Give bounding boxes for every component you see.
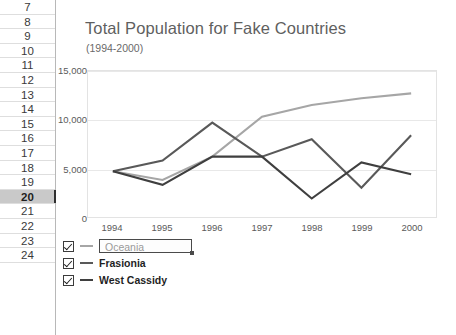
row-header-8[interactable]: 8	[0, 15, 55, 30]
x-tick-label-1999: 1999	[339, 222, 385, 233]
x-tick-label-2000: 2000	[389, 222, 435, 233]
legend-color-swatch-west-cassidy	[80, 279, 93, 281]
y-tick-label-10000: 10,000	[35, 114, 87, 125]
chart-legend[interactable]: OceaniaFrasioniaWest Cassidy	[63, 238, 263, 289]
row-header-9[interactable]: 9	[0, 29, 55, 44]
legend-item-oceania[interactable]: Oceania	[63, 238, 263, 254]
chart-subtitle: (1994-2000)	[86, 42, 143, 54]
series-line-frasionia[interactable]	[113, 123, 411, 188]
row-header-7[interactable]: 7	[0, 0, 55, 15]
legend-item-west-cassidy[interactable]: West Cassidy	[63, 272, 263, 288]
series-line-oceania[interactable]	[113, 93, 411, 180]
y-tick-label-5000: 5,000	[35, 163, 87, 174]
chart-title: Total Population for Fake Countries	[85, 19, 346, 38]
y-tick-label-15000: 15,000	[35, 65, 87, 76]
x-tick-label-1994: 1994	[89, 222, 135, 233]
legend-color-swatch-oceania	[80, 245, 93, 247]
legend-checkbox-oceania[interactable]	[63, 241, 74, 252]
chart-object[interactable]: Total Population for Fake Countries (199…	[57, 0, 456, 300]
series-line-west-cassidy[interactable]	[113, 157, 411, 199]
legend-item-frasionia[interactable]: Frasionia	[63, 255, 263, 271]
plot-area[interactable]	[87, 70, 437, 218]
legend-label-west-cassidy[interactable]: West Cassidy	[99, 274, 167, 286]
legend-checkbox-frasionia[interactable]	[63, 258, 74, 269]
x-tick-label-1996: 1996	[189, 222, 235, 233]
legend-label-frasionia[interactable]: Frasionia	[99, 257, 146, 269]
x-tick-label-1998: 1998	[289, 222, 335, 233]
row-header-10[interactable]: 10	[0, 44, 55, 59]
x-tick-label-1995: 1995	[139, 222, 185, 233]
legend-label-oceania[interactable]: Oceania	[99, 239, 192, 253]
row-header-23[interactable]: 23	[0, 234, 55, 249]
y-axis: 05,00010,00015,000	[31, 70, 87, 218]
plot-series-svg	[88, 71, 436, 217]
legend-checkbox-west-cassidy[interactable]	[63, 275, 74, 286]
y-tick-label-0: 0	[35, 213, 87, 224]
legend-color-swatch-frasionia	[80, 262, 93, 264]
row-header-24[interactable]: 24	[0, 248, 55, 263]
x-tick-label-1997: 1997	[239, 222, 285, 233]
x-axis: 1994199519961997199819992000	[87, 222, 437, 238]
